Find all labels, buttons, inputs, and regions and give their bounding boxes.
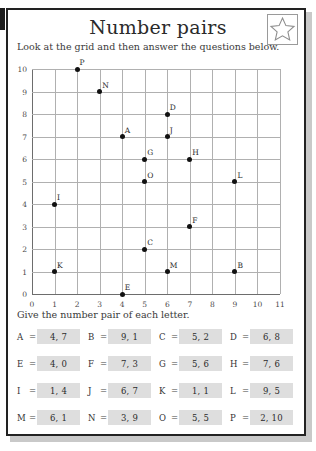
y-axis-tick-label: 10 — [13, 65, 27, 74]
answer-row: E=4, 0F=7, 3G=5, 6H=7, 6 — [17, 350, 301, 377]
answer-input-g[interactable]: 5, 6 — [179, 356, 222, 371]
grid-line-horizontal — [32, 272, 280, 273]
plot-point-label: H — [192, 148, 199, 157]
grid-line-horizontal — [32, 92, 280, 93]
grid-line-horizontal — [32, 114, 280, 115]
plot-point-label: C — [147, 238, 153, 247]
equals-sign: = — [28, 332, 37, 342]
answer-letter: J — [88, 386, 99, 396]
plot-point — [120, 292, 125, 297]
plot-point — [165, 112, 170, 117]
x-axis-tick-label: 1 — [48, 300, 62, 309]
answer-input-k[interactable]: 1, 1 — [179, 383, 222, 398]
answer-letter: L — [230, 386, 241, 396]
worksheet-page: Number pairs Look at the grid and then a… — [6, 8, 306, 436]
plot-point-label: F — [192, 216, 197, 225]
plot-point-label: B — [237, 261, 243, 270]
answer-input-a[interactable]: 4, 7 — [37, 329, 80, 344]
answer-input-l[interactable]: 9, 5 — [250, 383, 293, 398]
answer-cell: N=3, 9 — [88, 410, 159, 425]
answers-section: A=4, 7B=9, 1C=5, 2D=6, 8E=4, 0F=7, 3G=5,… — [17, 323, 301, 431]
plot-point — [165, 134, 170, 139]
plot-point — [52, 202, 57, 207]
equals-sign: = — [99, 359, 108, 369]
x-axis-tick-label: 6 — [160, 300, 174, 309]
plot-point-label: D — [170, 103, 176, 112]
plot-point-label: M — [170, 261, 178, 270]
answer-input-e[interactable]: 4, 0 — [37, 356, 80, 371]
plot-point-label: O — [147, 171, 153, 180]
y-axis-tick-label: 7 — [13, 133, 27, 142]
answer-input-n[interactable]: 3, 9 — [108, 410, 151, 425]
plot-point-label: G — [147, 148, 153, 157]
answer-letter: F — [88, 359, 99, 369]
equals-sign: = — [241, 332, 250, 342]
x-axis-tick-label: 8 — [205, 300, 219, 309]
answer-row: A=4, 7B=9, 1C=5, 2D=6, 8 — [17, 323, 301, 350]
x-axis-tick-label: 0 — [25, 300, 39, 309]
answer-cell: L=9, 5 — [230, 383, 301, 398]
plot-point — [120, 134, 125, 139]
answer-cell: F=7, 3 — [88, 356, 159, 371]
y-axis-tick-label: 8 — [13, 110, 27, 119]
plot-point — [97, 89, 102, 94]
plot-point-label: J — [170, 126, 173, 135]
answer-input-i[interactable]: 1, 4 — [37, 383, 80, 398]
answer-input-h[interactable]: 7, 6 — [250, 356, 293, 371]
plot-point — [232, 269, 237, 274]
y-axis-tick-label: 4 — [13, 200, 27, 209]
binding-edge — [0, 8, 5, 30]
plot-point-label: I — [57, 193, 60, 202]
answer-input-f[interactable]: 7, 3 — [108, 356, 151, 371]
answer-input-m[interactable]: 6, 1 — [37, 410, 80, 425]
grid-line-vertical — [280, 69, 281, 294]
y-axis-tick-label: 5 — [13, 178, 27, 187]
plot-point-label: L — [237, 171, 242, 180]
equals-sign: = — [99, 413, 108, 423]
answer-letter: H — [230, 359, 241, 369]
plot-point — [165, 269, 170, 274]
plot-point — [232, 179, 237, 184]
plot-point — [142, 179, 147, 184]
answer-letter: E — [17, 359, 28, 369]
equals-sign: = — [28, 413, 37, 423]
plot-point-label: K — [57, 261, 63, 270]
answer-cell: D=6, 8 — [230, 329, 301, 344]
plot-point — [187, 157, 192, 162]
answer-letter: B — [88, 332, 99, 342]
answer-cell: H=7, 6 — [230, 356, 301, 371]
plot-point — [142, 157, 147, 162]
answer-input-j[interactable]: 6, 7 — [108, 383, 151, 398]
answer-row: I=1, 4J=6, 7K=1, 1L=9, 5 — [17, 377, 301, 404]
answer-letter: O — [159, 413, 170, 423]
answer-input-c[interactable]: 5, 2 — [179, 329, 222, 344]
answer-letter: N — [88, 413, 99, 423]
answer-letter: G — [159, 359, 170, 369]
y-axis-tick-label: 1 — [13, 268, 27, 277]
y-axis-tick-label: 6 — [13, 155, 27, 164]
answer-input-d[interactable]: 6, 8 — [250, 329, 293, 344]
plot-point-label: E — [125, 283, 130, 292]
instruction-bottom: Give the number pair of each letter. — [17, 309, 190, 320]
x-axis-tick-label: 10 — [250, 300, 264, 309]
answer-cell: K=1, 1 — [159, 383, 230, 398]
answer-letter: P — [230, 413, 241, 423]
answer-cell: I=1, 4 — [17, 383, 88, 398]
answer-cell: O=5, 5 — [159, 410, 230, 425]
x-axis-tick-label: 11 — [273, 300, 287, 309]
plot-point-label: N — [102, 81, 109, 90]
answer-letter: M — [17, 413, 28, 423]
coordinate-grid: 01234567891011012345678910ABCDEFGHIJKLMN… — [8, 10, 308, 310]
answer-input-b[interactable]: 9, 1 — [108, 329, 151, 344]
x-axis-tick-label: 7 — [183, 300, 197, 309]
equals-sign: = — [99, 386, 108, 396]
plot-point — [75, 67, 80, 72]
answer-input-o[interactable]: 5, 5 — [179, 410, 222, 425]
answer-cell: A=4, 7 — [17, 329, 88, 344]
plot-point-label: A — [125, 126, 130, 135]
answer-letter: C — [159, 332, 170, 342]
answer-letter: A — [17, 332, 28, 342]
answer-input-p[interactable]: 2, 10 — [250, 410, 293, 425]
equals-sign: = — [28, 359, 37, 369]
equals-sign: = — [241, 386, 250, 396]
